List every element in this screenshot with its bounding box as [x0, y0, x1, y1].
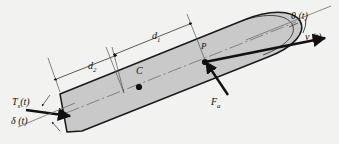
- distance-d1-subscript: 1: [157, 36, 160, 43]
- rudder-angle-label: δ (t): [11, 116, 28, 126]
- steering-torque-argument: (t): [20, 96, 29, 107]
- distance-d1-label: d1: [152, 31, 160, 44]
- distance-d2-subscript: 2: [93, 66, 96, 73]
- hull-centerline: [66, 22, 296, 113]
- diagram-canvas: [0, 0, 339, 144]
- steering-torque-label: Ts(t): [12, 97, 30, 110]
- point-p-text: P: [201, 41, 207, 51]
- heading-angle-text: θ (t): [291, 10, 308, 21]
- rudder-force-label: Fa: [211, 97, 221, 110]
- point-p-label: P: [201, 42, 207, 51]
- velocity-label: v (t): [305, 32, 321, 42]
- distance-d2-label: d2: [88, 61, 96, 74]
- center-of-mass-label: C: [136, 66, 143, 76]
- rudder-force-subscript: a: [217, 102, 220, 109]
- ship-steering-dynamics-figure: θ (t) v (t) d1 d2 C P Fa Ts(t) δ (t): [0, 0, 339, 144]
- heading-angle-label: θ (t): [291, 11, 308, 21]
- center-of-mass-marker: [136, 84, 142, 90]
- center-of-mass-text: C: [136, 65, 143, 76]
- velocity-text: v (t): [305, 31, 321, 42]
- rudder-angle-text: δ (t): [11, 115, 28, 126]
